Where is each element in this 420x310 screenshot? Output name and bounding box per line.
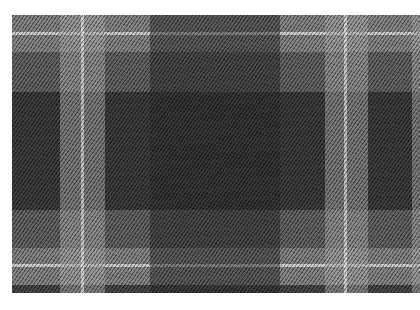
vertical-stripe bbox=[81, 15, 84, 293]
vertical-stripe bbox=[150, 15, 280, 293]
vertical-stripe bbox=[344, 15, 347, 293]
tartan-fabric bbox=[12, 15, 420, 293]
vertical-stripe bbox=[412, 15, 420, 293]
